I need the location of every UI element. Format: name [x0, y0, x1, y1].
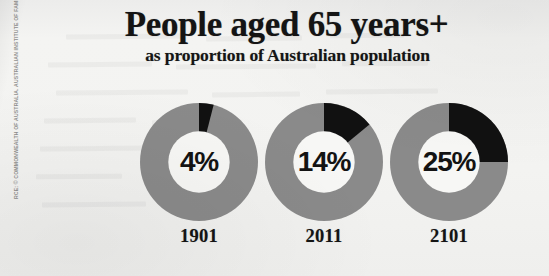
- donut-chart-1901: 4% 1901: [140, 103, 258, 247]
- infographic-page: RCE: © COMMONWEALTH OF AUSTRALIA. AUSTRA…: [0, 0, 549, 276]
- donut-graphic-2011: 14%: [265, 103, 383, 221]
- donut-chart-2101: 25% 2101: [390, 103, 508, 247]
- donut-value-label-2011: 14%: [265, 103, 383, 221]
- donut-graphic-1901: 4%: [140, 103, 258, 221]
- donut-year-label-2011: 2011: [265, 226, 383, 247]
- donut-value-label-2101: 25%: [390, 103, 508, 221]
- page-title: People aged 65 years+: [24, 6, 549, 44]
- heading-block: People aged 65 years+ as proportion of A…: [0, 0, 549, 65]
- donut-value-label-1901: 4%: [140, 103, 258, 221]
- donut-chart-2011: 14% 2011: [265, 103, 383, 247]
- page-subtitle: as proportion of Australian population: [26, 45, 549, 65]
- donut-graphic-2101: 25%: [390, 103, 508, 221]
- donut-year-label-2101: 2101: [390, 226, 508, 247]
- donut-year-label-1901: 1901: [140, 226, 258, 247]
- donut-chart-row: 4% 1901 14% 2011 25%: [132, 103, 532, 263]
